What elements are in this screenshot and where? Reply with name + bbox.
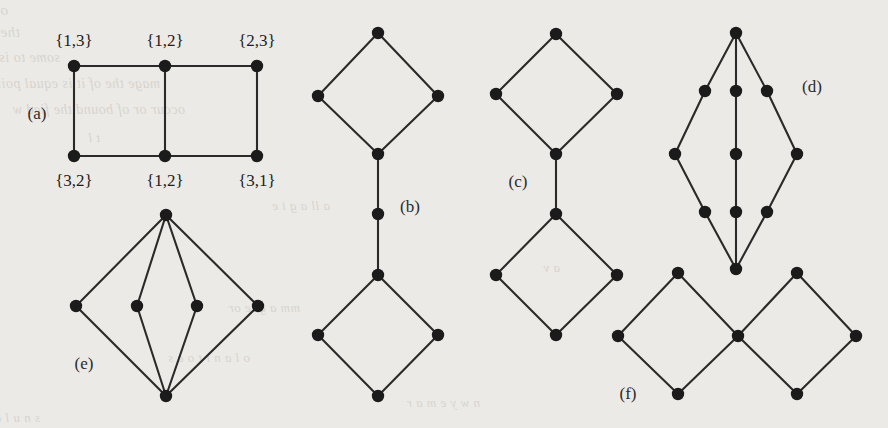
graph-vertex [612,330,624,342]
graph-vertex [672,267,684,279]
graph-vertex [791,148,803,160]
graph-vertex [761,206,773,218]
graph-caption-d: (d) [802,77,822,96]
graph-vertex [372,269,384,281]
graph-edge [705,212,736,269]
graph-caption-a: (a) [28,104,47,123]
graph-edge [378,33,438,96]
graph-caption-f: (f) [620,384,637,403]
graph-edge [736,212,767,269]
graph-vertex [432,90,444,102]
graph-figure-canvas: {1,3}{1,2}{2,3}{3,2}{1,2}{3,1} (a)(b)(c)… [0,0,888,428]
graph-e-nodes [70,209,264,402]
graph-vertex [672,388,684,400]
graph-vertex [68,60,80,72]
graph-caption-b: (b) [400,197,420,216]
graph-edge [318,335,378,396]
graph-vertex [312,90,324,102]
graph-edge [767,91,797,154]
graph-vertex [252,300,264,312]
graph-vertex [432,329,444,341]
graph-edge [496,34,556,94]
graph-vertex [131,300,143,312]
graph-edge [678,273,738,336]
graph-vertex [550,28,562,40]
graph-vertex [730,206,742,218]
graph-edge [797,273,856,336]
graph-edge [738,273,797,336]
graph-vertex [611,269,623,281]
graph-vertex [791,267,803,279]
graph-edge [705,33,736,91]
graph-vertex [68,150,80,162]
graph-vertex [730,148,742,160]
graph-vertex [372,208,384,220]
vertex-set-label: {3,2} [55,171,93,190]
graph-edge [675,154,705,212]
graph-vertex [372,27,384,39]
graph-vertex [490,88,502,100]
graph-edge [736,33,767,91]
graph-vertex [730,85,742,97]
graph-e-edges [76,215,258,396]
graph-vertex [850,330,862,342]
vertex-set-label: {1,2} [146,171,184,190]
graph-vertex [70,300,82,312]
graph-vertex [372,148,384,160]
graph-vertex [550,208,562,220]
graph-vertex [251,60,263,72]
graph-edge [166,306,197,396]
graph-vertex [312,329,324,341]
graph-edge [767,154,797,212]
graph-edge [675,91,705,154]
graph-edge [378,96,438,154]
graph-edge [496,94,556,154]
graph-vertex [490,269,502,281]
graph-vertex [159,150,171,162]
graph-vertex [730,27,742,39]
figure-root: ossible propagating of seeing as play we… [0,0,888,428]
graph-edge [556,34,617,94]
vertex-set-label: {3,1} [238,171,276,190]
graph-edge [496,214,556,275]
graph-vertex [732,330,744,342]
graph-edge [496,275,556,335]
graph-edge [797,336,856,394]
graph-edge [378,275,438,335]
graph-vertex [550,329,562,341]
graph-edge [318,275,378,335]
graph-vertex [159,60,171,72]
graph-edge [378,335,438,396]
graph-vertex [730,263,742,275]
graph-vertex [611,88,623,100]
vertex-set-label: {1,3} [55,31,93,50]
graph-f-nodes [612,267,862,400]
graph-vertex [699,85,711,97]
graph-edge [166,215,258,306]
graph-vertex [699,206,711,218]
nodes-group [68,27,862,402]
graph-vertex [160,209,172,221]
graph-edge [618,273,678,336]
graph-vertex [251,150,263,162]
graph-edge [318,33,378,96]
graph-caption-c: (c) [509,172,528,191]
graph-vertex [791,388,803,400]
graph-caption-e: (e) [75,354,94,373]
vertex-set-label: {1,2} [146,31,184,50]
graph-edge [318,96,378,154]
graph-vertex [160,390,172,402]
graph-vertex [191,300,203,312]
graph-edge [556,214,617,275]
graph-vertex [669,148,681,160]
graph-edge [166,215,197,306]
caption-labels-group: (a)(b)(c)(d)(e)(f) [28,77,822,403]
graph-edge [678,336,738,394]
graph-edge [556,275,617,335]
graph-vertex [372,390,384,402]
graph-edge [166,306,258,396]
graph-edge [556,94,617,154]
graph-vertex [550,148,562,160]
graph-edge [738,336,797,394]
vertex-set-label: {2,3} [238,31,276,50]
